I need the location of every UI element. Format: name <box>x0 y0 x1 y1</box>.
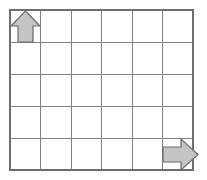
grid-cell <box>132 10 163 42</box>
grid-cell <box>102 138 133 170</box>
grid-cell <box>132 106 163 138</box>
grid-cell <box>10 138 41 170</box>
grid-cell <box>41 42 72 74</box>
grid-diagram: Up arrowRight arrow <box>0 0 207 180</box>
grid-cell <box>163 42 194 74</box>
grid-cell <box>71 10 102 42</box>
grid-cell <box>132 42 163 74</box>
grid-cell <box>102 106 133 138</box>
grid-cell <box>132 138 163 170</box>
grid-cell <box>71 138 102 170</box>
figure-canvas: Grid with two arrows A 6 by 5 rectangula… <box>0 0 207 180</box>
grid-cell <box>10 74 41 106</box>
grid-cell <box>41 10 72 42</box>
grid-cell <box>102 74 133 106</box>
grid-cell <box>71 106 102 138</box>
grid-cell <box>71 42 102 74</box>
grid-cell <box>10 106 41 138</box>
grid-cell <box>102 10 133 42</box>
grid-cell <box>163 74 194 106</box>
grid-cell <box>41 74 72 106</box>
grid-cell <box>71 74 102 106</box>
grid-cell <box>102 42 133 74</box>
grid-cell <box>163 10 194 42</box>
grid-cell <box>41 106 72 138</box>
grid-cell <box>10 42 41 74</box>
grid-cell <box>132 74 163 106</box>
grid-cell <box>41 138 72 170</box>
grid-cell <box>163 106 194 138</box>
